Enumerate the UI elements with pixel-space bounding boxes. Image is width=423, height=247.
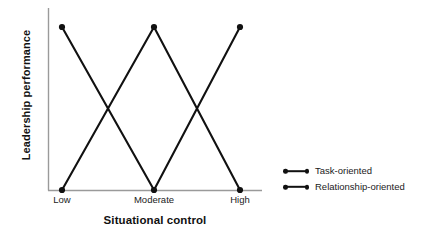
x-tick-label-high: High — [230, 194, 250, 205]
x-tick-label-moderate: Moderate — [134, 194, 174, 205]
series-relationship-oriented — [59, 24, 243, 193]
data-point — [59, 187, 65, 193]
legend-label-relationship-oriented: Relationship-oriented — [315, 179, 405, 195]
leadership-performance-chart: Leadership performance Low Moderate High… — [0, 0, 423, 247]
data-point — [237, 187, 243, 193]
plot-area — [0, 0, 423, 247]
legend-item-task-oriented: Task-oriented — [283, 163, 423, 179]
legend-label-task-oriented: Task-oriented — [315, 163, 372, 179]
data-point — [59, 24, 65, 30]
legend-line-marker-icon — [283, 166, 309, 176]
legend-item-relationship-oriented: Relationship-oriented — [283, 179, 423, 195]
x-tick-label-low: Low — [53, 194, 70, 205]
series-task-oriented-line — [62, 27, 240, 190]
x-axis-title: Situational control — [48, 214, 262, 226]
y-axis-title: Leadership performance — [18, 0, 34, 190]
data-point — [151, 187, 157, 193]
chart-legend: Task-oriented Relationship-oriented — [283, 163, 423, 195]
series-relationship-oriented-line — [62, 27, 240, 190]
series-task-oriented — [59, 24, 243, 193]
data-point — [237, 24, 243, 30]
data-point — [151, 24, 157, 30]
legend-line-marker-icon — [283, 182, 309, 192]
